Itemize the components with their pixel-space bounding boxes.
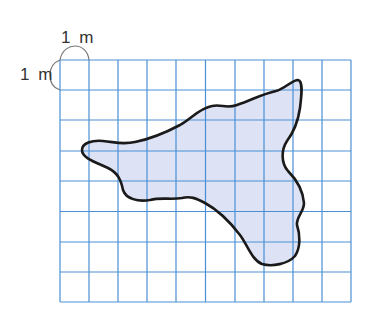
left-unit-label: 1 m — [20, 66, 54, 83]
top-unit-arc — [60, 46, 89, 60]
grid — [60, 60, 351, 302]
top-unit-label: 1 m — [61, 29, 95, 46]
grid-diagram — [0, 0, 380, 327]
